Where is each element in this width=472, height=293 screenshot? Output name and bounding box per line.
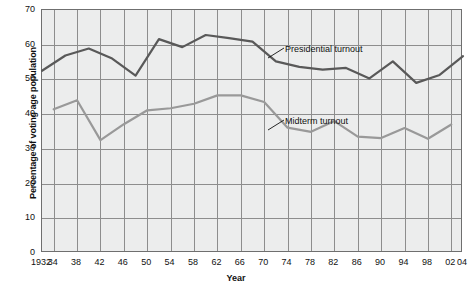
- x-tick-label: 98: [414, 258, 440, 267]
- y-tick-label: 70: [5, 5, 35, 14]
- y-tick-label: 50: [5, 74, 35, 83]
- x-tick-label: 82: [320, 258, 346, 267]
- x-tick-label: 38: [63, 258, 89, 267]
- x-tick-label: 58: [180, 258, 206, 267]
- series-annotation-label: Midterm turnout: [285, 116, 348, 126]
- x-tick-label: 42: [86, 258, 112, 267]
- x-tick-label: 54: [157, 258, 183, 267]
- y-tick-label: 0: [5, 248, 35, 257]
- x-tick-label: 04: [449, 258, 472, 267]
- y-tick-label: 10: [5, 213, 35, 222]
- x-tick-label: 46: [110, 258, 136, 267]
- plot-area: [41, 9, 462, 252]
- series-annotation-label: Presidential turnout: [285, 44, 363, 54]
- series-line: [54, 95, 452, 140]
- y-tick-label: 60: [5, 40, 35, 49]
- y-tick-label: 40: [5, 109, 35, 118]
- x-axis-title: Year: [0, 273, 472, 283]
- x-tick-label: 62: [203, 258, 229, 267]
- x-tick-label: 66: [227, 258, 253, 267]
- series-line: [42, 35, 463, 83]
- x-tick-label: 50: [133, 258, 159, 267]
- y-tick-label: 20: [5, 179, 35, 188]
- series-lines: [42, 10, 463, 253]
- x-tick-label: 34: [40, 258, 66, 267]
- y-tick-label: 30: [5, 144, 35, 153]
- chart-container: Percentage of voting age population Year…: [0, 0, 472, 293]
- x-tick-label: 94: [391, 258, 417, 267]
- x-tick-label: 90: [367, 258, 393, 267]
- x-tick-label: 86: [344, 258, 370, 267]
- x-tick-label: 70: [250, 258, 276, 267]
- x-tick-label: 74: [274, 258, 300, 267]
- annotation-leader-line: [268, 58, 298, 80]
- y-axis-title: Percentage of voting age population: [28, 28, 38, 218]
- annotation-leader-line: [268, 130, 298, 152]
- x-tick-label: 78: [297, 258, 323, 267]
